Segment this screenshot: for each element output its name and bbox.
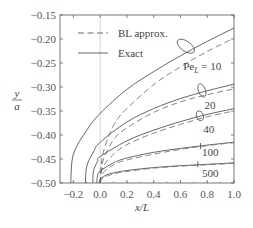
svg-text:a: a xyxy=(14,100,20,112)
y-tick-label: −0.30 xyxy=(31,81,57,93)
pe-label: 20 xyxy=(205,99,217,111)
x-tick-label: −0.2 xyxy=(63,188,83,200)
legend-label: BL approx. xyxy=(118,27,168,39)
legend: BL approx.Exact xyxy=(78,27,168,59)
svg-text:y: y xyxy=(14,87,20,99)
y-tick-label: −0.40 xyxy=(31,129,57,141)
pe-label: 500 xyxy=(202,167,219,179)
y-tick-label: −0.45 xyxy=(31,153,57,165)
y-tick-label: −0.35 xyxy=(31,105,57,117)
chart: PeL = 102040100500 −0.20.00.20.40.60.81.… xyxy=(0,0,253,228)
annotations: PeL = 102040100500 xyxy=(175,36,222,179)
x-tick-label: 0.8 xyxy=(200,188,214,200)
x-axis-label: x/L xyxy=(134,201,149,213)
y-tick-label: −0.50 xyxy=(31,177,57,189)
x-tick-label: 0.4 xyxy=(147,188,161,200)
x-tick-label: 0.6 xyxy=(174,188,188,200)
x-tick-label: 0.2 xyxy=(120,188,134,200)
x-tick-label: 1.0 xyxy=(227,188,241,200)
y-axis-label: y a xyxy=(12,87,22,112)
legend-label: Exact xyxy=(118,47,143,59)
y-tick-label: −0.15 xyxy=(31,9,57,21)
pe-label: 40 xyxy=(203,123,215,135)
pe-label: PeL = 10 xyxy=(183,60,222,75)
y-tick-label: −0.20 xyxy=(31,33,57,45)
x-tick-label: 0.0 xyxy=(93,188,107,200)
y-tick-label: −0.25 xyxy=(31,57,57,69)
pe-label: 100 xyxy=(202,146,219,158)
